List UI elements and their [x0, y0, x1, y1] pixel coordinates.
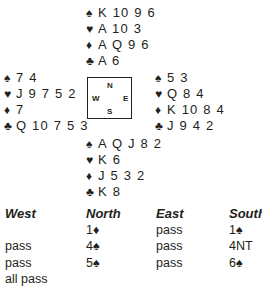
east-hearts: ♥Q 8 4 — [155, 86, 225, 102]
east-hand: ♠5 3 ♥Q 8 4 ♦K 10 8 4 ♣J 9 4 2 — [155, 70, 225, 134]
diamond-icon: ♦ — [155, 102, 167, 118]
heart-icon: ♥ — [155, 86, 167, 102]
spade-icon: ♠ — [4, 70, 16, 86]
diamond-icon: ♦ — [86, 168, 98, 184]
heart-icon: ♥ — [86, 152, 98, 168]
spade-icon: ♠ — [86, 5, 98, 21]
east-clubs: ♣J 9 4 2 — [155, 118, 225, 134]
club-icon: ♣ — [86, 53, 98, 69]
south-spades: ♠A Q J 8 2 — [86, 136, 162, 152]
header-east: East — [156, 206, 183, 221]
north-clubs: ♣A 6 — [86, 53, 156, 69]
compass-south: S — [107, 107, 112, 116]
south-hand: ♠A Q J 8 2 ♥K 6 ♦J 5 3 2 ♣K 8 — [86, 136, 162, 200]
compass-north: N — [107, 81, 113, 90]
club-icon: ♣ — [4, 118, 16, 134]
compass-east: E — [123, 94, 128, 103]
auction-row: pass 5♠ pass 6♠ — [0, 256, 262, 273]
east-diamonds: ♦K 10 8 4 — [155, 102, 225, 118]
west-hand: ♠7 4 ♥J 9 7 5 2 ♦7 ♣Q 10 7 5 3 — [4, 70, 89, 134]
north-spades: ♠K 10 9 6 — [86, 5, 156, 21]
auction-row: all pass — [0, 272, 262, 289]
auction-row: pass 4♠ pass 4NT — [0, 239, 262, 256]
club-icon: ♣ — [155, 118, 167, 134]
north-hearts: ♥A 10 3 — [86, 21, 156, 37]
spade-icon: ♠ — [155, 70, 167, 86]
header-north: North — [86, 206, 121, 221]
compass-west: W — [92, 94, 100, 103]
heart-icon: ♥ — [4, 86, 16, 102]
south-diamonds: ♦J 5 3 2 — [86, 168, 162, 184]
auction-table: West North East South 1♦ pass 1♠ pass 4♠… — [0, 206, 262, 289]
auction-row: 1♦ pass 1♠ — [0, 223, 262, 240]
spade-icon: ♠ — [86, 136, 98, 152]
auction-header: West North East South — [0, 206, 262, 223]
heart-icon: ♥ — [86, 21, 98, 37]
south-hearts: ♥K 6 — [86, 152, 162, 168]
west-spades: ♠7 4 — [4, 70, 89, 86]
west-clubs: ♣Q 10 7 5 3 — [4, 118, 89, 134]
diamond-icon: ♦ — [4, 102, 16, 118]
diamond-icon: ♦ — [86, 37, 98, 53]
west-hearts: ♥J 9 7 5 2 — [4, 86, 89, 102]
compass-box: N W E S — [87, 77, 132, 119]
north-hand: ♠K 10 9 6 ♥A 10 3 ♦A Q 9 6 ♣A 6 — [86, 5, 156, 69]
header-south: South — [229, 206, 262, 221]
south-clubs: ♣K 8 — [86, 184, 162, 200]
east-spades: ♠5 3 — [155, 70, 225, 86]
header-west: West — [5, 206, 36, 221]
north-diamonds: ♦A Q 9 6 — [86, 37, 156, 53]
club-icon: ♣ — [86, 184, 98, 200]
west-diamonds: ♦7 — [4, 102, 89, 118]
